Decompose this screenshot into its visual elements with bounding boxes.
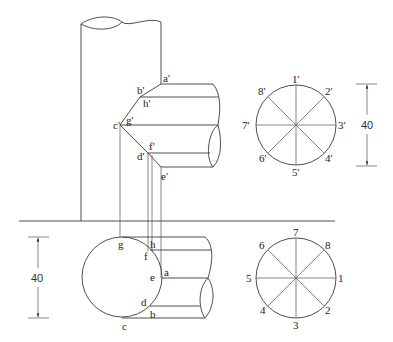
svg-text:5: 5 [246, 272, 252, 284]
svg-text:b: b [150, 308, 156, 320]
svg-text:8: 8 [325, 239, 331, 251]
svg-text:3: 3 [293, 319, 299, 331]
svg-text:8': 8' [258, 85, 266, 97]
svg-text:h: h [150, 238, 156, 250]
svg-text:c': c' [113, 119, 120, 131]
svg-text:a': a' [163, 72, 170, 84]
svg-text:e: e [150, 271, 155, 283]
svg-text:e': e' [161, 170, 168, 182]
vertical-cylinder [81, 17, 161, 221]
svg-text:d': d' [137, 150, 145, 162]
svg-text:4: 4 [260, 304, 266, 316]
svg-text:c: c [122, 320, 127, 332]
svg-text:g: g [118, 238, 124, 250]
dimension-top: 40 [28, 237, 49, 318]
projection-lines [120, 125, 161, 278]
svg-text:d: d [141, 296, 147, 308]
svg-text:6: 6 [259, 239, 265, 251]
svg-text:h': h' [143, 97, 151, 109]
svg-text:2: 2 [325, 304, 331, 316]
svg-text:3': 3' [338, 119, 346, 131]
aux-circle-front: 1' 2' 3' 4' 5' 6' 7' 8' [242, 73, 346, 178]
svg-text:40: 40 [31, 272, 43, 284]
svg-text:1: 1 [338, 272, 344, 284]
svg-text:5': 5' [292, 166, 300, 178]
svg-text:b': b' [137, 84, 145, 96]
svg-text:1': 1' [292, 73, 300, 85]
aux-circle-top: 7 8 1 2 3 4 5 6 [246, 226, 344, 331]
svg-text:7: 7 [293, 226, 299, 238]
svg-text:f': f' [149, 140, 155, 152]
svg-text:7': 7' [242, 119, 250, 131]
projection-drawing: a' b' h' c' g' f' d' e' g h f e a d b c … [0, 0, 393, 342]
svg-text:g': g' [126, 114, 134, 126]
svg-text:a: a [164, 266, 169, 278]
dimension-front: 40 [356, 84, 377, 166]
svg-text:40: 40 [361, 119, 373, 131]
svg-text:4': 4' [325, 152, 333, 164]
svg-text:6': 6' [259, 152, 267, 164]
svg-text:2': 2' [325, 85, 333, 97]
svg-text:f: f [144, 250, 148, 262]
intersection-curve-front [120, 84, 221, 167]
